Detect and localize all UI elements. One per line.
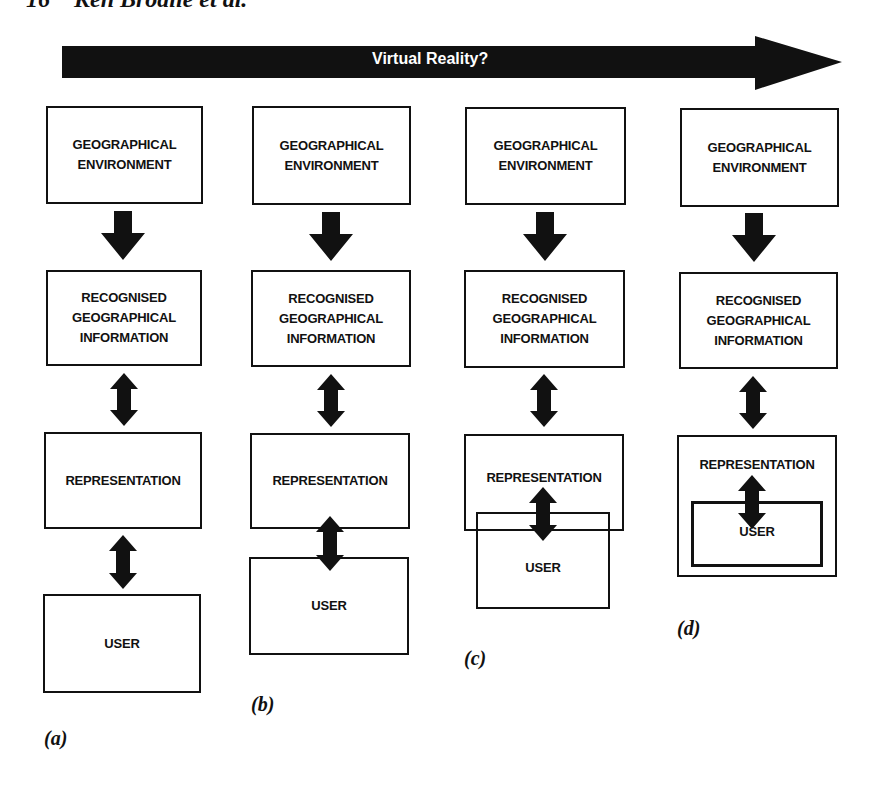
panel-d-double-arrow-icon xyxy=(739,376,767,429)
box-label: REPRESENTATION xyxy=(486,468,601,488)
panel-c-label: (c) xyxy=(464,647,486,670)
panel-b-recognised-information-box: RECOGNISED GEOGRAPHICAL INFORMATION xyxy=(251,270,411,367)
panel-c-geographical-environment-box: GEOGRAPHICAL ENVIRONMENT xyxy=(465,107,626,205)
panel-a-user-box: USER xyxy=(43,594,201,693)
box-label: REPRESENTATION xyxy=(272,471,387,491)
panel-a-recognised-information-box: RECOGNISED GEOGRAPHICAL INFORMATION xyxy=(46,270,202,366)
panel-a-geographical-environment-box: GEOGRAPHICAL ENVIRONMENT xyxy=(46,106,203,204)
panel-d-geographical-environment-box: GEOGRAPHICAL ENVIRONMENT xyxy=(680,108,839,207)
panel-d-down-arrow-icon xyxy=(732,213,776,263)
box-label: GEOGRAPHICAL ENVIRONMENT xyxy=(494,136,598,176)
panel-b-label: (b) xyxy=(251,693,274,716)
panel-c-double-arrow-icon xyxy=(529,487,557,541)
box-label: REPRESENTATION xyxy=(65,471,180,491)
panel-c-double-arrow-icon xyxy=(530,374,558,427)
virtual-reality-label: Virtual Reality? xyxy=(372,50,488,68)
box-label: USER xyxy=(525,558,560,578)
panel-d-double-arrow-icon xyxy=(738,475,766,529)
panel-c-recognised-information-box: RECOGNISED GEOGRAPHICAL INFORMATION xyxy=(464,270,625,368)
panel-b-down-arrow-icon xyxy=(309,212,353,262)
panel-b-double-arrow-icon xyxy=(317,374,345,427)
panel-b-user-box: USER xyxy=(249,557,409,655)
panel-a-double-arrow-icon xyxy=(109,535,137,589)
panel-c-down-arrow-icon xyxy=(523,212,567,262)
box-label: RECOGNISED GEOGRAPHICAL INFORMATION xyxy=(72,288,176,348)
panel-a-label: (a) xyxy=(44,727,67,750)
box-label: REPRESENTATION xyxy=(699,455,814,475)
panel-d-label: (d) xyxy=(677,617,700,640)
panel-a-double-arrow-icon xyxy=(110,373,138,426)
panel-b-double-arrow-icon xyxy=(316,516,344,571)
box-label: GEOGRAPHICAL ENVIRONMENT xyxy=(280,136,384,176)
panel-a-representation-box: REPRESENTATION xyxy=(44,432,202,529)
panel-b-representation-box: REPRESENTATION xyxy=(250,433,410,529)
box-label: USER xyxy=(104,634,139,654)
panel-b-geographical-environment-box: GEOGRAPHICAL ENVIRONMENT xyxy=(252,106,411,205)
box-label: RECOGNISED GEOGRAPHICAL INFORMATION xyxy=(279,289,383,349)
panel-d-recognised-information-box: RECOGNISED GEOGRAPHICAL INFORMATION xyxy=(679,272,838,369)
box-label: RECOGNISED GEOGRAPHICAL INFORMATION xyxy=(493,289,597,349)
box-label: RECOGNISED GEOGRAPHICAL INFORMATION xyxy=(707,291,811,351)
box-label: GEOGRAPHICAL ENVIRONMENT xyxy=(73,135,177,175)
box-label: GEOGRAPHICAL ENVIRONMENT xyxy=(708,138,812,178)
panel-a-down-arrow-icon xyxy=(101,211,145,261)
box-label: USER xyxy=(311,596,346,616)
